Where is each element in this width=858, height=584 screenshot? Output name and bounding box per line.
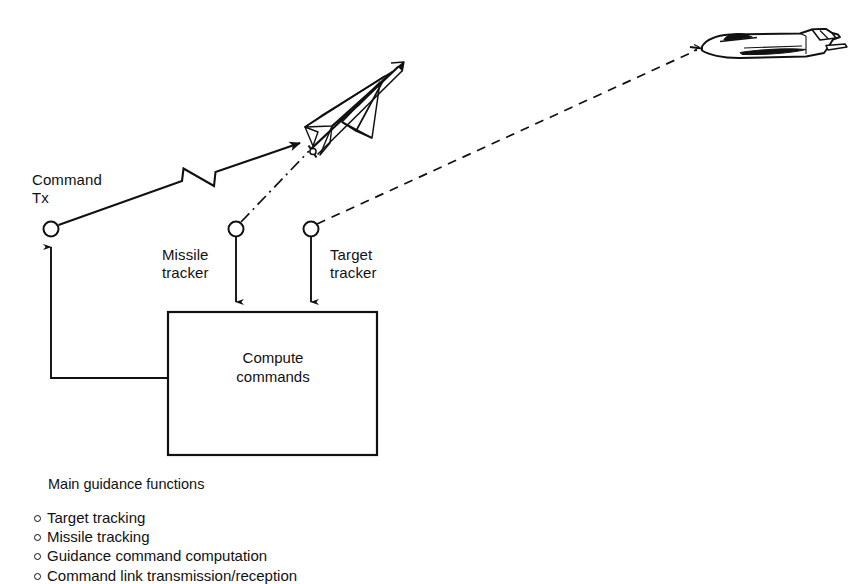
list-item: Guidance command computation	[34, 546, 297, 565]
bullet-circle-icon	[34, 515, 41, 522]
antenna-command-tx-icon	[44, 222, 59, 237]
label-compute-commands: Compute commands	[168, 348, 378, 386]
list-item: Target tracking	[34, 508, 297, 527]
list-item: Missile tracking	[34, 527, 297, 546]
missile-icon	[305, 62, 404, 158]
target-tracker-beam	[317, 50, 697, 224]
antenna-missile-tracker-icon	[229, 222, 244, 237]
box-to-command-tx-line	[51, 247, 168, 378]
diagram-canvas	[0, 0, 858, 584]
list-item-label: Guidance command computation	[47, 547, 267, 564]
list-item: Command link transmission/reception	[34, 566, 297, 584]
missile-tracker-beam	[241, 151, 309, 222]
guidance-diagram: Command Tx Missile tracker Target tracke…	[0, 0, 858, 584]
fighter-aircraft-icon	[690, 29, 847, 58]
bullet-circle-icon	[34, 534, 41, 541]
label-target-tracker: Target tracker	[330, 246, 377, 282]
list-item-label: Command link transmission/reception	[47, 567, 297, 584]
bullet-circle-icon	[34, 553, 41, 560]
list-item-label: Target tracking	[47, 509, 145, 526]
antenna-target-tracker-icon	[304, 222, 319, 237]
label-command-tx: Command Tx	[32, 171, 102, 207]
functions-list: Target tracking Missile tracking Guidanc…	[34, 508, 297, 584]
label-missile-tracker: Missile tracker	[162, 246, 209, 282]
functions-list-heading: Main guidance functions	[48, 476, 204, 493]
list-item-label: Missile tracking	[47, 528, 150, 545]
bullet-circle-icon	[34, 573, 41, 580]
